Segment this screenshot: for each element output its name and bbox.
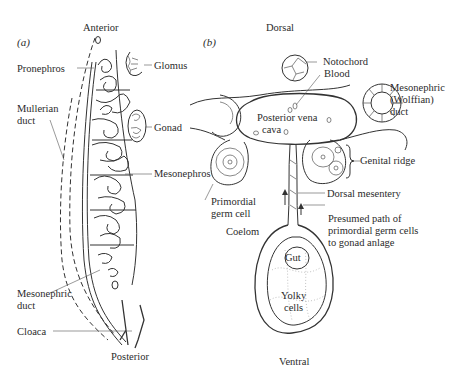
dorsal-label: Dorsal xyxy=(266,22,294,34)
gonad-drawing xyxy=(128,110,146,142)
dorsal-mesentery xyxy=(288,145,290,225)
body-wall xyxy=(255,225,333,333)
coelom-label: Coelom xyxy=(226,226,259,238)
notochord-label: Notochord xyxy=(323,56,368,68)
presumed-path-label: Presumed path of primordial germ cells t… xyxy=(328,213,418,249)
gut-label: Gut xyxy=(285,252,301,264)
pronephros-tip xyxy=(96,37,101,44)
gonad-label: Gonad xyxy=(154,122,182,134)
left-genital-ridge xyxy=(211,140,248,185)
mesonephric-duct-line xyxy=(82,62,122,345)
anterior-label: Anterior xyxy=(83,22,119,34)
cava-label: cava xyxy=(262,124,281,136)
right-genital-ridge xyxy=(303,140,346,184)
notochord-drawing xyxy=(282,55,308,81)
cloaca-label: Cloaca xyxy=(17,326,46,338)
glomus-drawing xyxy=(126,52,142,76)
blood-label: Blood xyxy=(324,68,350,80)
posterior-label: Posterior xyxy=(111,351,149,363)
mesonephros-outline xyxy=(116,50,137,285)
primordial-germ-cell-label: Primordial germ cell xyxy=(211,196,256,220)
posterior-vena-label: Posterior vena xyxy=(257,112,317,124)
panel-a-drawing xyxy=(60,37,146,349)
mullerian-duct-label: Mullerian duct xyxy=(17,103,58,127)
yolky-cells-label: Yolky cells xyxy=(281,290,306,314)
pronephros-label: Pronephros xyxy=(17,63,65,75)
genital-ridge-label: Genital ridge xyxy=(360,155,415,167)
embryonic-kidney-gonad-diagram: (a) Anterior Pronephros Glomus Mullerian… xyxy=(0,0,463,377)
cloaca-drawing xyxy=(120,300,144,348)
panel-a-label: (a) xyxy=(17,36,30,48)
glomus-label: Glomus xyxy=(154,60,187,72)
ventral-label: Ventral xyxy=(279,356,309,368)
panel-b-label: (b) xyxy=(203,36,216,48)
mesonephros-label: Mesonephros xyxy=(154,168,211,180)
mesonephric-duct-label: Mesonephric duct xyxy=(17,288,72,312)
genital-ridge-bracket xyxy=(346,145,354,178)
wolffian-duct-label: Mesonephric (Wolffian) duct xyxy=(390,82,445,118)
dorsal-mesentery-label: Dorsal mesentery xyxy=(327,188,401,200)
